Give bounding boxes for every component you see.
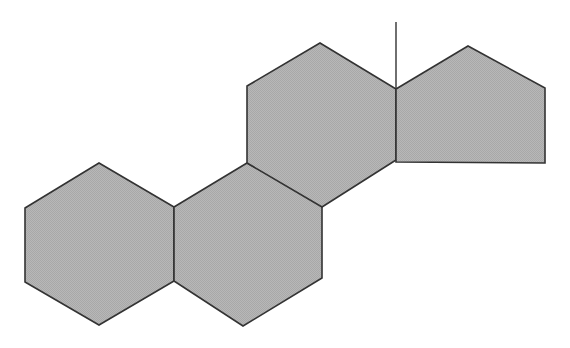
- figure-canvas: [0, 0, 570, 348]
- ring-diagram-svg: [0, 0, 570, 348]
